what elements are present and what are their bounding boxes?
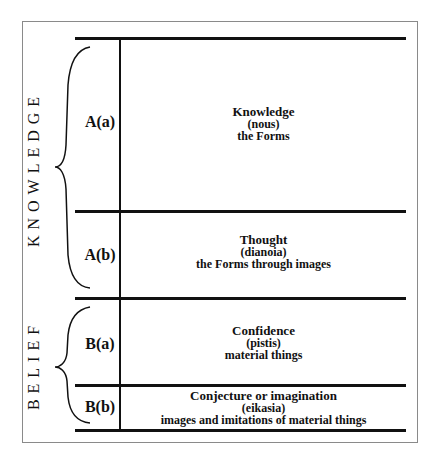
segment-code-bb: B(b) <box>80 398 120 416</box>
divider-ba-bb <box>75 384 406 387</box>
cell-confidence: Confidence (pistis) material things <box>121 325 406 361</box>
cell-object: images and imitations of material things <box>121 414 406 426</box>
segment-code-ba: B(a) <box>80 335 120 353</box>
cell-conjecture: Conjecture or imagination (eikasia) imag… <box>121 390 406 426</box>
divider-top <box>75 37 406 40</box>
segment-code-ab: A(b) <box>80 246 120 264</box>
cell-thought: Thought (dianoia) the Forms through imag… <box>121 234 406 270</box>
divider-bottom <box>75 429 406 432</box>
cell-knowledge: Knowledge (nous) the Forms <box>121 106 406 142</box>
divider-ab-ba <box>75 297 406 300</box>
segment-code-aa: A(a) <box>80 113 120 131</box>
cell-object: material things <box>121 349 406 361</box>
divider-aa-ab <box>75 210 406 213</box>
group-label-belief: BELIEF <box>24 300 44 430</box>
group-label-knowledge: KNOWLEDGE <box>24 40 44 298</box>
cell-object: the Forms <box>121 130 406 142</box>
cell-object: the Forms through images <box>121 258 406 270</box>
